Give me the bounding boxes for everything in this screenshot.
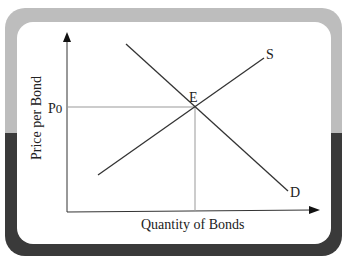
- demand-label: D: [290, 185, 300, 200]
- price-label: P0: [48, 101, 62, 116]
- y-axis-label: Price per Bond: [29, 76, 44, 160]
- supply-label: S: [266, 47, 274, 62]
- x-axis-label: Quantity of Bonds: [141, 217, 244, 232]
- equilibrium-label: E: [189, 90, 198, 105]
- diagram-canvas: E S D P0 Quantity of Bonds Price per Bon…: [0, 0, 353, 263]
